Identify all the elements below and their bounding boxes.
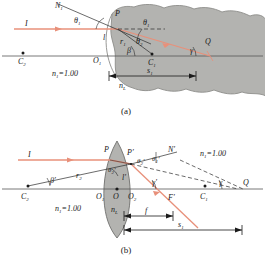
label-beta-a: β <box>126 46 131 55</box>
label-height-l-prime-b: l′ <box>122 173 126 182</box>
point-O-b <box>115 187 118 190</box>
dimension-f-b <box>124 211 173 221</box>
dashed-axis-to-Q-b <box>180 160 243 189</box>
label-C2-a: C2 <box>18 57 26 67</box>
label-O1-b: O1 <box>96 192 104 202</box>
label-point-Q-b: Q <box>243 178 249 187</box>
label-gamma-prime-b: γ′ <box>152 178 157 187</box>
label-beta-prime-b: β′ <box>49 176 56 185</box>
point-Pprime-b <box>130 163 132 165</box>
label-O1-a: O1 <box>93 56 101 66</box>
point-C2-a <box>22 52 25 55</box>
label-normal-Nprime-b: N′ <box>167 145 175 154</box>
incident-ray-b <box>18 157 110 162</box>
label-C2-b: C2 <box>21 192 29 202</box>
label-incident-ray-b: I <box>27 150 31 159</box>
incident-ray-a <box>14 26 118 31</box>
panel-b: I P P′ N′ θ2′ θ1′ θ2′ l′ β′ r2 γ′ γ Q C2… <box>2 141 263 255</box>
label-C1-b: C1 <box>200 192 208 202</box>
label-normal-a: N1 <box>54 1 63 11</box>
label-n1-a: n1=1.00 <box>52 69 78 79</box>
label-incident-ray-a: I <box>24 19 28 28</box>
label-n1-left-b: n1=1.00 <box>55 204 81 214</box>
point-C1-b <box>204 185 207 188</box>
label-point-Q-a: Q <box>205 37 211 46</box>
figure-canvas: I N1 θ1 P θ1 θ2 l r1 β γ Q C2 C1 O1 n1=1… <box>0 0 265 260</box>
label-radius-r2-b: r2 <box>76 171 82 181</box>
emergent-ray-b <box>131 164 198 228</box>
label-theta2-prime-b: θ2′ <box>137 157 145 166</box>
caption-panel-b: (b) <box>121 245 132 255</box>
label-O2-b: O2 <box>128 192 137 202</box>
panel-a: I N1 θ1 P θ1 θ2 l r1 β γ Q C2 C1 O1 n1=1… <box>2 1 265 116</box>
label-point-P-b: P <box>103 145 109 154</box>
point-C1-a <box>151 53 154 56</box>
caption-panel-a: (a) <box>121 106 131 116</box>
label-point-P-a: P <box>114 9 120 18</box>
label-O-b: O <box>113 192 119 201</box>
label-focal-length-b: f <box>145 206 149 215</box>
label-focus-Fprime-b: F′ <box>167 193 175 202</box>
label-theta1-a: θ1 <box>74 16 80 26</box>
label-point-Pprime-b: P′ <box>126 148 134 157</box>
point-C2-b <box>27 185 30 188</box>
optics-figure: I N1 θ1 P θ1 θ2 l r1 β γ Q C2 C1 O1 n1=1… <box>0 0 265 260</box>
label-s1-b: s1 <box>178 220 184 230</box>
label-n1-right-b: n1=1.00 <box>200 149 226 159</box>
